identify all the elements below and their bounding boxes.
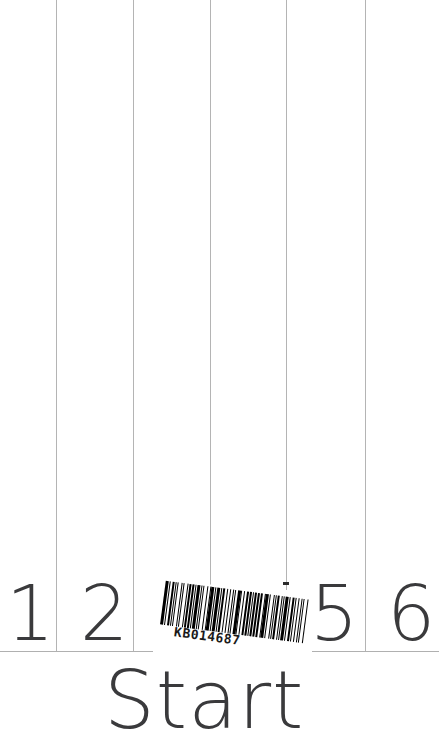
column-number-1: 1	[6, 576, 54, 652]
column-number-6: 6	[387, 576, 435, 652]
scanned-page: 1 2 3 4 5 6 KB014687 Start	[0, 0, 439, 749]
column-number-2: 2	[80, 576, 128, 652]
column-rule-2	[133, 0, 134, 651]
barcode-sticker: KB014687	[154, 578, 314, 665]
scan-speck-1	[283, 582, 289, 585]
column-rule-4	[286, 0, 287, 590]
column-number-5: 5	[310, 576, 358, 652]
form-title: Start	[104, 659, 304, 743]
column-rule-3	[210, 0, 211, 586]
column-rule-1	[56, 0, 57, 651]
column-rule-5	[365, 0, 366, 651]
